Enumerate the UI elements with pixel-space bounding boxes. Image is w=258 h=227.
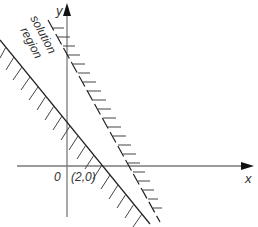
x-axis-label: x xyxy=(244,171,252,186)
x-axis-arrow-icon xyxy=(241,162,254,170)
diagonal-hatches xyxy=(0,47,142,227)
boundary-line-right xyxy=(48,20,162,222)
horizontal-hatches xyxy=(53,28,162,208)
y-axis-label: y xyxy=(55,3,64,18)
y-axis xyxy=(63,3,71,217)
point-label: (2,0) xyxy=(71,170,96,184)
solution-region-diagram: y x 0 (2,0) solution region xyxy=(0,0,258,227)
origin-label: 0 xyxy=(54,170,61,184)
y-axis-arrow-icon xyxy=(63,3,71,16)
